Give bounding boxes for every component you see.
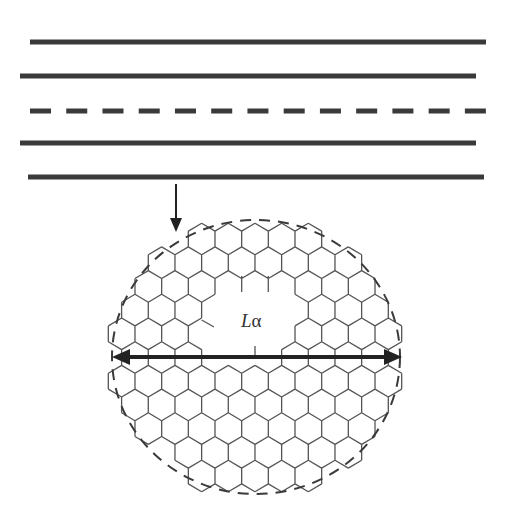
double-arrow-icon bbox=[112, 349, 402, 365]
l-alpha-label: Lα bbox=[241, 310, 262, 332]
arrow-head bbox=[170, 218, 182, 232]
lamellar-layers bbox=[20, 42, 486, 177]
down-arrow-icon bbox=[170, 184, 182, 232]
label-subscript: α bbox=[252, 310, 262, 331]
lipid-phase-diagram bbox=[0, 0, 505, 511]
label-symbol: L bbox=[241, 310, 252, 331]
